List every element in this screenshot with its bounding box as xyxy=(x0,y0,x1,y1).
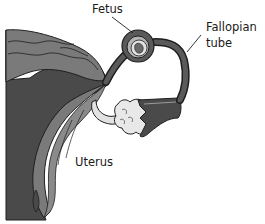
diagram-canvas: Fetus Fallopian tube Uterus xyxy=(0,0,265,224)
fallopian-tube-label-line2: tube xyxy=(206,37,232,50)
fetus-shape xyxy=(135,43,144,53)
fetus-label: Fetus xyxy=(92,3,123,16)
uterus-label: Uterus xyxy=(75,156,113,169)
fallopian-tube-inner xyxy=(155,42,186,100)
fallopian-tube-label-line1: Fallopian xyxy=(206,21,257,34)
tube-leader-line xyxy=(187,35,201,52)
fallopian-tube-proximal-inner xyxy=(106,56,124,82)
fetus-leader-line xyxy=(112,17,133,33)
